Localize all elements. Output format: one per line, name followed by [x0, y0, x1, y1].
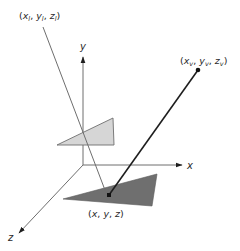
viewer-label: (xv, yv, zv): [180, 55, 227, 68]
light-source-label: (xl, yl, zl): [19, 10, 60, 23]
z-axis-label: z: [7, 232, 14, 243]
viewer-point: [196, 68, 201, 73]
x-axis-label: x: [186, 160, 193, 171]
surface-point-label: (x, y, z): [88, 208, 124, 219]
y-axis-label: y: [79, 41, 87, 52]
light-triangle: [57, 118, 114, 145]
lighting-geometry-diagram: y x z (xl, yl, zl) (xv, yv, zv) (x, y, z…: [0, 0, 240, 251]
surface-point: [107, 193, 111, 197]
dark-triangle: [63, 174, 157, 206]
